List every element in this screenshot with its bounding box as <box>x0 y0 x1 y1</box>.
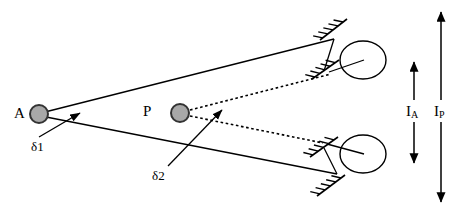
node-group <box>30 104 189 123</box>
dotted-upper <box>190 74 331 110</box>
beam-upper <box>41 39 334 113</box>
solid-beam-group <box>41 39 337 174</box>
support-lower-inner-hatch-1 <box>309 149 319 151</box>
wheel-group <box>327 41 386 173</box>
support-lower-outer-hatch-3 <box>326 180 336 182</box>
support-lower-inner-hatch-2 <box>314 145 324 147</box>
support-upper-outer-hatch-2 <box>323 28 333 30</box>
deflection-label-delta2: δ2 <box>152 169 165 182</box>
support-upper-outer-hatch-0 <box>313 36 323 38</box>
wheel-lower-spoke <box>327 144 364 154</box>
wheel-lower <box>327 135 386 173</box>
support-lower-outer-hatch-4 <box>331 176 341 178</box>
current-label-I-P: IP <box>434 104 445 120</box>
current-label-subscript: A <box>411 109 418 120</box>
support-lower-outer-hatch-2 <box>321 184 331 186</box>
dotted-lower <box>190 116 323 143</box>
node-P <box>171 104 189 122</box>
support-upper-outer <box>313 19 347 40</box>
wheel-upper <box>329 41 386 79</box>
connector-lower <box>324 148 337 174</box>
deflection-diagram: APδ1δ2IAIP <box>0 0 460 215</box>
support-lower-outer <box>310 175 345 196</box>
support-lower-outer-hatch-1 <box>316 188 326 190</box>
support-lower-inner-hatch-0 <box>303 153 313 155</box>
node-label-P: P <box>143 104 151 119</box>
support-upper-inner-hatch-1 <box>310 71 320 73</box>
support-upper-inner-hatch-0 <box>305 75 315 77</box>
current-label-I-A: IA <box>406 104 418 120</box>
deflection-label-delta1: δ1 <box>31 140 44 153</box>
support-upper-outer-hatch-3 <box>328 24 338 26</box>
dotted-beam-group <box>190 74 331 143</box>
support-upper-outer-hatch-4 <box>334 20 344 22</box>
support-lower-inner-hatch-4 <box>324 137 334 139</box>
support-lower-inner-hatch-3 <box>319 141 329 143</box>
node-A <box>30 105 48 123</box>
support-upper-outer-hatch-1 <box>318 32 328 34</box>
support-lower-outer-hatch-0 <box>310 192 320 194</box>
connector-group <box>324 39 337 174</box>
deflection-arrow-group <box>39 110 222 166</box>
current-label-subscript: P <box>439 109 445 120</box>
node-label-A: A <box>14 106 25 121</box>
support-upper-inner-hatch-2 <box>315 67 325 69</box>
diagram-canvas <box>0 0 460 215</box>
